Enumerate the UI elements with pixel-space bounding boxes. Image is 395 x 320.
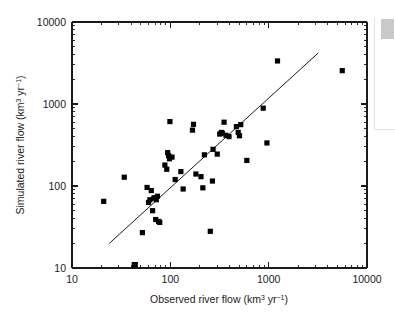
y-tick-label: 100 xyxy=(48,180,66,192)
y-tick-label: 10000 xyxy=(37,16,66,28)
data-point xyxy=(193,171,198,176)
data-point xyxy=(200,185,205,190)
data-point xyxy=(210,147,215,152)
data-point xyxy=(164,167,169,172)
x-tick-label: 10000 xyxy=(352,273,381,285)
y-axis-ticks xyxy=(72,22,367,268)
data-point xyxy=(208,229,213,234)
data-point xyxy=(155,194,160,199)
x-tick-label: 100 xyxy=(162,273,180,285)
chart-figure: 10100100010000 10100100010000 Observed r… xyxy=(0,0,395,320)
data-point xyxy=(261,106,266,111)
data-point xyxy=(190,128,195,133)
data-point xyxy=(221,120,226,125)
data-point xyxy=(181,186,186,191)
data-point xyxy=(140,230,145,235)
data-point xyxy=(191,122,196,127)
x-tick-labels: 10100100010000 xyxy=(66,273,382,285)
x-axis-title: Observed river flow (km3 yr−1) xyxy=(150,293,288,305)
data-point xyxy=(198,174,203,179)
data-point xyxy=(169,155,174,160)
scatter-plot: 10100100010000 10100100010000 Observed r… xyxy=(0,0,395,320)
data-point xyxy=(173,177,178,182)
data-point xyxy=(122,175,127,180)
plot-frame xyxy=(72,22,367,268)
data-point xyxy=(226,134,231,139)
y-tick-label: 10 xyxy=(54,262,66,274)
data-point xyxy=(210,178,215,183)
data-point xyxy=(167,119,172,124)
data-point xyxy=(202,152,207,157)
scrollbar-thumb[interactable] xyxy=(381,19,394,39)
data-point xyxy=(340,68,345,73)
y-tick-labels: 10100100010000 xyxy=(37,16,66,274)
data-point xyxy=(238,122,243,127)
data-point xyxy=(150,208,155,213)
x-tick-label: 10 xyxy=(66,273,78,285)
data-point xyxy=(178,169,183,174)
x-axis-ticks xyxy=(72,22,367,268)
y-axis-title: Simulated river flow (km3 yr−1) xyxy=(14,75,26,214)
data-point xyxy=(244,158,249,163)
data-point xyxy=(237,133,242,138)
y-tick-label: 1000 xyxy=(43,98,67,110)
data-point xyxy=(101,199,106,204)
x-tick-label: 1000 xyxy=(257,273,281,285)
data-point xyxy=(133,262,138,267)
data-point xyxy=(264,140,269,145)
data-point xyxy=(157,220,162,225)
data-point xyxy=(275,58,280,63)
data-points xyxy=(101,58,345,267)
data-point xyxy=(149,188,154,193)
data-point xyxy=(215,151,220,156)
